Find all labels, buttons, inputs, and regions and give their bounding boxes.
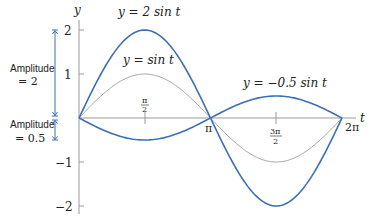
x-ticks: π 2 π 3π 2 2π — [141, 96, 359, 146]
label-sin-t: y = sin t — [122, 53, 174, 67]
amplitude-05-label-line2: = 0.5 — [15, 132, 45, 145]
amplitude-2-label-line2: = 2 — [18, 75, 38, 88]
tick-label-neg2: −2 — [55, 200, 73, 214]
tick-pi-half-den: 2 — [142, 105, 147, 114]
label-2-sin-t: y = 2 sin t — [117, 5, 180, 19]
amplitude-05-annotation: Amplitude = 0.5 — [10, 119, 58, 145]
tick-pi-half-num: π — [142, 96, 147, 105]
y-axis-label: y — [73, 3, 81, 17]
t-axis-label: t — [360, 111, 365, 125]
tick-3pi-half-den: 2 — [273, 137, 278, 146]
tick-label-neg1: −1 — [55, 156, 73, 170]
sine-amplitude-chart: y t 2 1 −1 −2 π 2 π 3π 2 2π y = 2 sin t … — [0, 0, 374, 222]
amplitude-2-annotation: Amplitude = 2 — [10, 30, 58, 116]
amplitude-05-label-line1: Amplitude — [10, 119, 55, 130]
tick-3pi-half-num: 3π — [270, 127, 280, 136]
label-neg-half-sin-t: y = −0.5 sin t — [242, 76, 327, 90]
tick-label-2: 2 — [64, 24, 72, 38]
tick-2pi: 2π — [345, 121, 359, 134]
axes: y t — [73, 3, 365, 214]
amplitude-2-label-line1: Amplitude — [10, 63, 55, 74]
tick-label-1: 1 — [64, 68, 72, 82]
tick-pi: π — [205, 122, 212, 135]
